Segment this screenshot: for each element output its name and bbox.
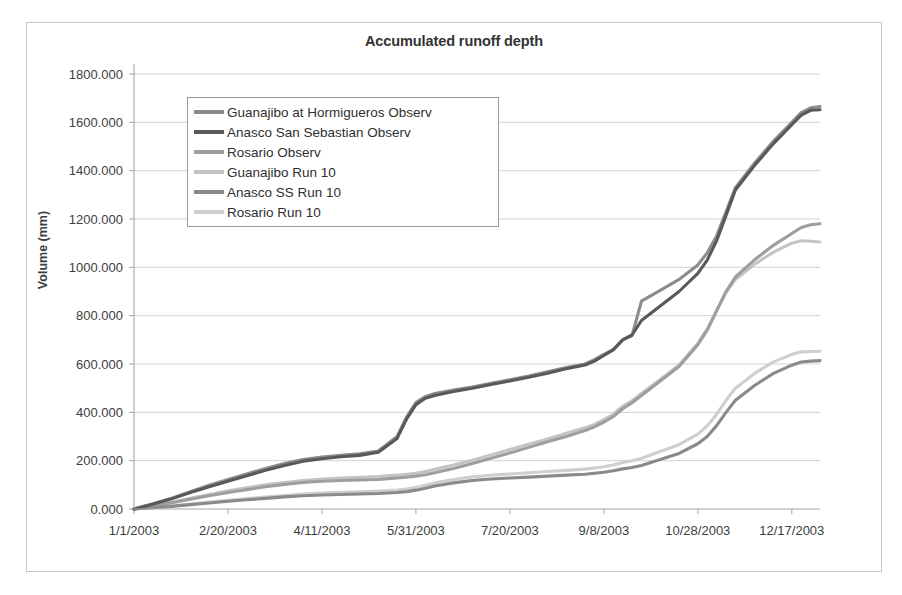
legend-item[interactable]: Anasco San Sebastian Observ bbox=[194, 122, 492, 142]
y-axis-tick-labels: 0.000200.000400.000600.000800.0001000.00… bbox=[69, 67, 123, 517]
y-tick-label: 800.000 bbox=[76, 308, 123, 323]
x-tick-label: 1/1/2003 bbox=[109, 523, 160, 538]
legend-item[interactable]: Rosario Run 10 bbox=[194, 202, 492, 222]
y-tick-label: 1800.000 bbox=[69, 67, 123, 82]
chart-legend: Guanajibo at Hormigueros ObservAnasco Sa… bbox=[187, 97, 499, 227]
chart-frame: Accumulated runoff depth Volume (mm) 0.0… bbox=[26, 22, 882, 572]
series-line bbox=[134, 361, 820, 509]
series-line bbox=[134, 224, 820, 509]
y-tick-label: 200.000 bbox=[76, 453, 123, 468]
x-tick-label: 10/28/2003 bbox=[665, 523, 730, 538]
x-tick-label: 2/20/2003 bbox=[199, 523, 257, 538]
legend-color-swatch bbox=[194, 210, 224, 214]
legend-item[interactable]: Anasco SS Run 10 bbox=[194, 182, 492, 202]
y-tick-label: 1000.000 bbox=[69, 260, 123, 275]
y-tick-label: 1400.000 bbox=[69, 163, 123, 178]
legend-item-label: Guanajibo at Hormigueros Observ bbox=[227, 105, 432, 120]
y-tick-label: 1600.000 bbox=[69, 115, 123, 130]
y-axis-tick-marks bbox=[129, 74, 134, 509]
series-line bbox=[134, 351, 820, 509]
legend-color-swatch bbox=[194, 190, 224, 194]
legend-color-swatch bbox=[194, 110, 224, 114]
x-axis-tick-labels: 1/1/20032/20/20034/11/20035/31/20037/20/… bbox=[109, 523, 825, 538]
legend-item[interactable]: Rosario Observ bbox=[194, 142, 492, 162]
legend-item-label: Guanajibo Run 10 bbox=[227, 165, 336, 180]
x-tick-label: 5/31/2003 bbox=[387, 523, 445, 538]
legend-item-label: Rosario Observ bbox=[227, 145, 321, 160]
x-tick-label: 7/20/2003 bbox=[481, 523, 539, 538]
y-tick-label: 0.000 bbox=[90, 502, 123, 517]
legend-item[interactable]: Guanajibo at Hormigueros Observ bbox=[194, 102, 492, 122]
x-tick-label: 12/17/2003 bbox=[759, 523, 824, 538]
y-tick-label: 400.000 bbox=[76, 405, 123, 420]
legend-item-label: Anasco SS Run 10 bbox=[227, 185, 341, 200]
legend-item[interactable]: Guanajibo Run 10 bbox=[194, 162, 492, 182]
y-tick-label: 600.000 bbox=[76, 357, 123, 372]
legend-color-swatch bbox=[194, 130, 224, 134]
legend-item-label: Anasco San Sebastian Observ bbox=[227, 125, 411, 140]
legend-color-swatch bbox=[194, 170, 224, 174]
legend-item-label: Rosario Run 10 bbox=[227, 205, 321, 220]
series-line bbox=[134, 241, 820, 509]
legend-color-swatch bbox=[194, 150, 224, 154]
x-tick-label: 9/8/2003 bbox=[579, 523, 630, 538]
x-axis-tick-marks bbox=[134, 509, 792, 514]
x-tick-label: 4/11/2003 bbox=[294, 523, 351, 538]
y-tick-label: 1200.000 bbox=[69, 212, 123, 227]
